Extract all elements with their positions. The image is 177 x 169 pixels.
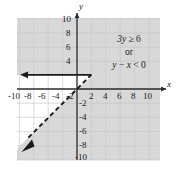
x-tick-label-10: 10 [143, 92, 152, 101]
inequality-2-minus: − [119, 60, 124, 70]
y-axis-label: y [79, 2, 83, 11]
y-tick-label-6: 6 [66, 43, 71, 52]
inequality-annotation: 3y ≥ 6 or y − x < 0 [96, 33, 162, 72]
inequality-line-2: y − x < 0 [96, 59, 162, 72]
x-axis-arrowhead [161, 87, 166, 92]
x-tick-label-2: 2 [89, 92, 94, 101]
y-tick-label--10: -10 [75, 153, 87, 162]
inequality-1-operator: ≥ [129, 34, 134, 44]
inequality-2-operator: < [133, 60, 138, 70]
x-tick-label--8: -8 [24, 92, 32, 101]
y-tick-label--8: -8 [79, 141, 87, 150]
x-tick-label--2: -2 [66, 92, 74, 101]
coordinate-plane [0, 0, 177, 169]
inequality-1-rhs: 6 [136, 34, 141, 44]
inequality-2-y: y [112, 60, 116, 70]
inequality-1-lhs: 3y [117, 34, 126, 44]
x-tick-label--4: -4 [52, 92, 60, 101]
inequality-line-1: 3y ≥ 6 [96, 33, 162, 46]
inequality-2-x: x [127, 60, 131, 70]
x-tick-label-4: 4 [103, 92, 108, 101]
y-tick-label-8: 8 [66, 29, 71, 38]
x-tick-label--6: -6 [38, 92, 46, 101]
x-tick-label-8: 8 [131, 92, 136, 101]
y-tick-label--6: -6 [79, 127, 87, 136]
x-axis-label: x [167, 80, 171, 89]
inequality-connector: or [96, 46, 162, 59]
x-tick-label--10: -10 [8, 92, 20, 101]
y-tick-label-4: 4 [66, 57, 71, 66]
y-tick-label--2: -2 [79, 99, 87, 108]
y-axis-arrowhead [75, 13, 80, 18]
x-tick-label-6: 6 [117, 92, 122, 101]
inequality-2-rhs: 0 [141, 60, 146, 70]
graph-figure: -10 -8 -6 -4 -2 2 4 6 8 10 10 8 6 4 -2 -… [0, 0, 177, 169]
y-tick-label--4: -4 [79, 113, 87, 122]
y-tick-label-10: 10 [62, 15, 71, 24]
